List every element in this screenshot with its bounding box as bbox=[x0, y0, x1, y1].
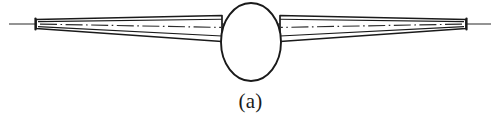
figure-panel: (a) bbox=[0, 0, 501, 121]
central-hub-ellipse bbox=[221, 3, 281, 81]
right-arm-group bbox=[280, 16, 467, 42]
left-arm-group bbox=[36, 16, 223, 42]
figure-caption: (a) bbox=[0, 88, 501, 114]
